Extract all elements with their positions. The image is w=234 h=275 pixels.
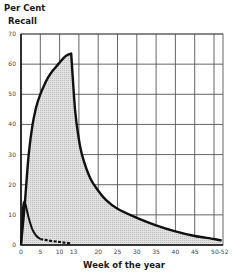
y-tick-label: 20 [8, 181, 16, 188]
y-tick-label: 60 [8, 60, 16, 67]
y-tick-label: 10 [8, 211, 16, 218]
x-tick-label: 50-52 [211, 248, 229, 255]
x-tick-label: 10 [56, 248, 64, 255]
x-tick-label: 25 [114, 248, 122, 255]
y-tick-label: 30 [8, 151, 16, 158]
x-axis-label: Week of the year [0, 260, 234, 270]
y-tick-label: 50 [8, 90, 16, 97]
y-tick-label: 40 [8, 120, 16, 127]
recall-chart: 010203040506070 05101320253035404550-52 [0, 0, 234, 275]
x-tick-label: 0 [19, 248, 23, 255]
x-tick-label: 35 [152, 248, 160, 255]
x-tick-label: 5 [38, 248, 42, 255]
x-tick-label: 30 [133, 248, 141, 255]
x-tick-label: 13 [70, 248, 78, 255]
x-tick-label: 40 [172, 248, 180, 255]
y-tick-label: 0 [12, 241, 16, 248]
x-tick-label: 45 [191, 248, 199, 255]
recall-shaded-area [21, 54, 222, 245]
x-tick-label: 20 [94, 248, 102, 255]
y-axis-ticks: 010203040506070 [8, 30, 16, 248]
y-tick-label: 70 [8, 30, 16, 37]
x-axis-ticks: 05101320253035404550-52 [19, 248, 229, 255]
